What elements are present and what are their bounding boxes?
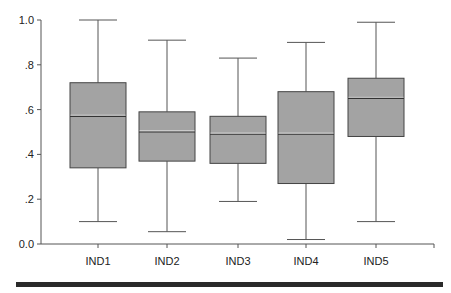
box-plot-ind4 bbox=[278, 42, 334, 239]
box-plot-ind3 bbox=[210, 58, 266, 201]
x-axis: IND1IND2IND3IND4IND5 bbox=[41, 244, 434, 267]
y-tick-label: 0.0 bbox=[19, 238, 34, 250]
box-plot-chart: 0.0.2.4.6.81.0 IND1IND2IND3IND4IND5 bbox=[0, 0, 451, 293]
x-tick-label: IND3 bbox=[225, 255, 250, 267]
iqr-box bbox=[210, 116, 266, 163]
bottom-divider-bar bbox=[16, 282, 443, 287]
x-tick-label: IND5 bbox=[363, 255, 388, 267]
boxes bbox=[70, 20, 404, 240]
x-tick-label: IND1 bbox=[85, 255, 110, 267]
box-plot-ind5 bbox=[348, 22, 404, 221]
y-tick-label: .8 bbox=[25, 59, 34, 71]
y-tick-label: 1.0 bbox=[19, 14, 34, 26]
box-plot-ind1 bbox=[70, 20, 126, 222]
y-tick-label: .6 bbox=[25, 104, 34, 116]
iqr-box bbox=[70, 83, 126, 168]
iqr-box bbox=[348, 78, 404, 136]
box-plot-ind2 bbox=[139, 40, 195, 232]
x-tick-label: IND4 bbox=[293, 255, 318, 267]
iqr-box bbox=[278, 92, 334, 184]
y-tick-label: .2 bbox=[25, 193, 34, 205]
y-axis: 0.0.2.4.6.81.0 bbox=[19, 14, 41, 250]
y-tick-label: .4 bbox=[25, 148, 34, 160]
x-tick-label: IND2 bbox=[154, 255, 179, 267]
iqr-box bbox=[139, 112, 195, 161]
